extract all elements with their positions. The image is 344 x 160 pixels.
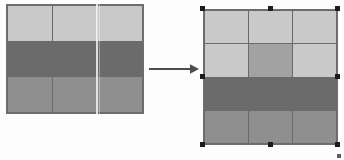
selection-handle-se[interactable]: [335, 142, 340, 147]
transform-arrow-icon: [148, 62, 200, 76]
selection-handle-ne[interactable]: [335, 6, 340, 11]
grid-cell[interactable]: [249, 11, 292, 43]
grid-cell[interactable]: [53, 77, 97, 112]
corner-speck-artifact: [337, 154, 341, 158]
grid-cell[interactable]: [53, 42, 97, 77]
grid-cell[interactable]: [249, 44, 292, 76]
grid-cell[interactable]: [8, 6, 52, 41]
grid-cell[interactable]: [293, 78, 336, 110]
diagram-canvas: [0, 0, 344, 160]
grid-cell[interactable]: [98, 6, 142, 41]
grid-cell[interactable]: [98, 42, 142, 77]
grid-cell[interactable]: [8, 77, 52, 112]
grid-cell[interactable]: [293, 111, 336, 143]
grid-cell[interactable]: [53, 6, 97, 41]
selection-handle-e[interactable]: [335, 74, 340, 79]
selection-handle-nw[interactable]: [200, 6, 205, 11]
arrow-head: [190, 64, 199, 74]
grid-cell[interactable]: [293, 44, 336, 76]
result-grid[interactable]: [203, 9, 338, 145]
grid-cell[interactable]: [205, 44, 248, 76]
selection-handle-s[interactable]: [268, 142, 273, 147]
grid-cell[interactable]: [8, 42, 52, 77]
grid-cell[interactable]: [98, 77, 142, 112]
selection-handle-sw[interactable]: [200, 142, 205, 147]
grid-cell[interactable]: [205, 11, 248, 43]
grid-cell[interactable]: [293, 11, 336, 43]
grid-cell[interactable]: [249, 78, 292, 110]
grid-cell[interactable]: [205, 78, 248, 110]
selection-handle-n[interactable]: [268, 6, 273, 11]
grid-cell[interactable]: [249, 111, 292, 143]
grid-cell[interactable]: [205, 111, 248, 143]
selection-handle-w[interactable]: [200, 74, 205, 79]
source-grid[interactable]: [6, 4, 144, 114]
